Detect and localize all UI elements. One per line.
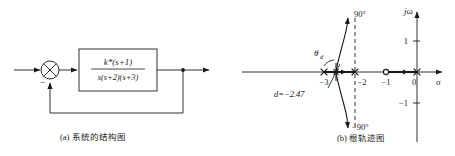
imaginary-axis-label: jω [403, 6, 413, 16]
imag-tick-label-neg1: −1 [399, 98, 408, 108]
locus-direction-arrow-left [341, 69, 346, 74]
departure-angle-arc [324, 60, 334, 66]
breakaway-label: d=−2.47 [274, 89, 305, 99]
block-numerator: k*(s+1) [104, 57, 133, 67]
locus-direction-arrow-right [403, 69, 408, 74]
block-denominator: s(s+2)(s+3) [98, 73, 139, 82]
caption-panel-a: (a) 系统的结构图 [60, 130, 126, 142]
departure-angle-subscript: d [320, 54, 324, 60]
transfer-function-block [79, 49, 157, 91]
zero-marker-minus1 [383, 69, 388, 74]
summing-minus-sign: − [40, 77, 45, 87]
real-tick-label-minus2: −2 [357, 77, 366, 87]
real-tick-label-minus3: −3 [319, 77, 328, 87]
caption-panel-b: (b) 根轨迹图 [337, 131, 385, 143]
real-tick-label-zero: 0 [412, 77, 416, 87]
real-tick-label-minus1: −1 [381, 77, 390, 87]
real-axis-label: σ [436, 77, 441, 87]
locus-branch-lower [336, 72, 348, 128]
imag-tick-label-1: 1 [404, 36, 408, 46]
locus-branch-upper [336, 18, 348, 72]
asymptote-angle-top: 90° [354, 9, 366, 19]
departure-angle-label: θ [314, 48, 319, 58]
